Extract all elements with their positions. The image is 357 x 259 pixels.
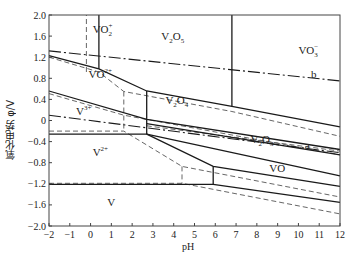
solid-boundary-line xyxy=(49,184,340,202)
region-label-VO: VO xyxy=(269,162,285,174)
line-label-b: b xyxy=(311,68,317,80)
region-label-V2O5: V2O5 xyxy=(161,30,184,45)
region-label-V: V xyxy=(107,196,115,208)
x-tick-label: 12 xyxy=(335,229,345,240)
x-tick-label: 8 xyxy=(254,229,259,240)
y-tick-label: 0.8 xyxy=(34,73,47,84)
pourbaix-diagram: −2−101234567891011122.01.61.20.80.40−0.4… xyxy=(0,0,357,259)
line-label-a: a xyxy=(305,139,310,151)
x-tick-label: 2 xyxy=(130,229,135,240)
y-axis-title: 氧化电势 φ/V xyxy=(4,100,18,160)
region-label-VO3-: VO−3 xyxy=(298,43,318,59)
x-tick-label: 6 xyxy=(213,229,218,240)
dashed-boundary-line xyxy=(49,131,340,197)
region-label-V3+: V3+ xyxy=(76,104,91,117)
y-tick-label: 1.2 xyxy=(34,52,47,63)
solid-boundary-line xyxy=(147,134,340,186)
region-label-V2O4: V2O4 xyxy=(165,94,188,109)
x-tick-label: 3 xyxy=(150,229,155,240)
y-tick-label: −1.2 xyxy=(28,178,46,189)
y-tick-label: 2.0 xyxy=(34,10,47,21)
region-label-V2+: V2+ xyxy=(93,145,108,158)
x-tick-label: 7 xyxy=(234,229,239,240)
y-tick-label: 0.4 xyxy=(34,94,47,105)
y-tick-label: −0.4 xyxy=(28,136,46,147)
phase-boundary-lines xyxy=(49,15,340,214)
region-label-VO2+ion: VO2+ xyxy=(88,67,111,80)
x-tick-label: −1 xyxy=(64,229,75,240)
y-tick-label: −1.6 xyxy=(28,199,46,210)
y-tick-label: −2.0 xyxy=(28,221,46,232)
x-tick-label: 5 xyxy=(192,229,197,240)
x-tick-label: 10 xyxy=(293,229,303,240)
x-tick-label: 9 xyxy=(275,229,280,240)
x-axis-title: pH xyxy=(182,241,194,252)
region-label-V2O3: V2O3 xyxy=(251,133,274,148)
y-tick-label: −0.8 xyxy=(28,157,46,168)
x-tick-label: 1 xyxy=(109,229,114,240)
region-label-VO2+: VO+2 xyxy=(93,22,113,38)
dashed-boundary-line xyxy=(49,183,340,214)
y-tick-label: 1.6 xyxy=(34,31,47,42)
solid-boundary-line xyxy=(147,124,340,155)
x-tick-label: 4 xyxy=(171,229,176,240)
region-labels: VO+2V2O5VO−3VO2+V2O4V3+V2+V2O3VOVba xyxy=(76,22,318,208)
x-tick-label: 0 xyxy=(88,229,93,240)
y-tick-label: 0 xyxy=(41,115,46,126)
x-tick-label: 11 xyxy=(314,229,324,240)
